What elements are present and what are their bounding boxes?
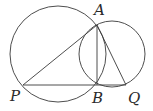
point-label-A: A [92, 1, 105, 19]
geometry-diagram: A P B Q [0, 0, 153, 111]
segment-AQ [97, 25, 126, 85]
diagram-svg: A P B Q [0, 0, 153, 111]
large-circle [10, 6, 106, 102]
point-label-B: B [91, 89, 103, 107]
small-circle [79, 21, 145, 87]
segment-PA [23, 25, 97, 85]
point-label-P: P [9, 87, 21, 105]
point-label-Q: Q [128, 89, 140, 107]
